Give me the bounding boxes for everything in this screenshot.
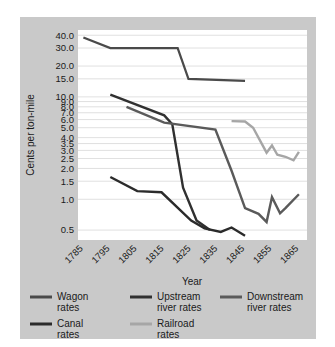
x-tick-label: 1825 [170,243,193,266]
x-tick-label: 1815 [143,243,166,266]
legend-label-line2: rates [57,329,79,339]
legend-label-line2: rates [57,302,79,313]
x-tick-label: 1835 [197,243,220,266]
chart-legend: WagonratesUpstreamriver ratesDownstreamr… [30,291,303,339]
legend-label-line1: Railroad [157,318,194,329]
legend-label-line2: rates [157,329,179,339]
y-tick-label: 20.0 [56,60,75,71]
x-tick-label: 1855 [251,243,274,266]
y-tick-label: 1.0 [61,194,74,205]
legend-label-line2: river rates [247,302,291,313]
x-tick-label: 1805 [116,243,139,266]
x-axis-tick-labels: 178517951805181518251835184518551865 [62,243,300,266]
y-tick-label: 0.5 [61,224,74,235]
legend-label-line1: Upstream [157,291,200,302]
x-tick-label: 1845 [224,243,247,266]
y-tick-label: 2.0 [61,163,74,174]
y-axis-title: Cents per ton-mile [25,94,36,176]
y-tick-label: 15.0 [56,73,75,84]
x-tick-label: 1865 [278,243,301,266]
y-tick-label: 40.0 [56,30,75,41]
legend-label-line2: river rates [157,302,201,313]
legend-label-line1: Wagon [57,291,88,302]
x-tick-label: 1795 [89,243,112,266]
legend-label-line1: Downstream [247,291,303,302]
y-axis-tick-labels: 40.030.020.015.010.09.08.07.06.05.04.03.… [56,30,75,236]
y-tick-label: 30.0 [56,42,75,53]
y-tick-label: 1.5 [61,176,74,187]
rates-line-chart: 40.030.020.015.010.09.08.07.06.05.04.03.… [20,17,316,339]
x-axis-title: Year [182,276,203,287]
chart-figure: 40.030.020.015.010.09.08.07.06.05.04.03.… [20,17,316,339]
x-tick-label: 1785 [62,243,85,266]
legend-label-line1: Canal [57,318,83,329]
